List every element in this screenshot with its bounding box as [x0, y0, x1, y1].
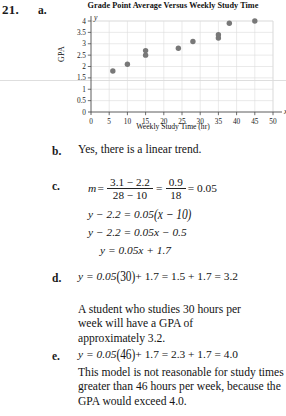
data-point — [216, 32, 221, 37]
axes — [88, 16, 282, 115]
data-point — [190, 39, 195, 44]
point-slope-lhs: y − 2.2 = 0.05 — [88, 208, 154, 220]
slope-frac2-denominator: 18 — [166, 189, 186, 202]
answer-e-text: This model is not reasonable for study t… — [78, 366, 284, 409]
part-label-a: a. — [38, 4, 47, 16]
point-slope-equation: y − 2.2 = 0.05(x − 10) — [88, 208, 191, 220]
chart-title: Grade Point Average Versus Weekly Study … — [60, 1, 286, 10]
answer-d-equation: y = 0.05(30)+ 1.7 = 1.5 + 1.7 = 3.2 — [78, 270, 238, 282]
problem-number: 21. — [2, 2, 19, 18]
slope-fraction-2: 0.918 — [166, 176, 186, 202]
tick-marks: 0510152025303540455000.511.522.533.54 — [77, 17, 277, 126]
grid-lines — [91, 21, 273, 112]
slope-frac2-numerator: 0.9 — [166, 176, 186, 190]
answer-b-text: Yes, there is a linear trend. — [78, 143, 278, 157]
y-tick-label: 3 — [82, 39, 86, 48]
data-points — [110, 18, 257, 73]
slope-result: = 0.05 — [188, 182, 217, 194]
y-tick-label: 1 — [82, 85, 86, 94]
y-tick-label: 0 — [82, 108, 86, 117]
slope-fraction-1: 3.1 − 2.228 − 10 — [107, 176, 153, 202]
data-point — [110, 68, 115, 73]
slope-frac1-denominator: 28 − 10 — [107, 189, 153, 202]
slope-frac1-numerator: 3.1 − 2.2 — [107, 176, 153, 190]
data-point — [252, 18, 257, 23]
data-point — [125, 62, 130, 67]
part-label-c: c. — [52, 180, 60, 192]
slope-equals-2: = — [155, 182, 164, 194]
answer-e-equation: y = 0.05(46)+ 1.7 = 2.3 + 1.7 = 4.0 — [78, 348, 238, 360]
data-point — [143, 48, 148, 53]
answer-d-paren: (30) — [116, 268, 135, 283]
x-axis-title: Weekly Study Time (hr) — [60, 122, 286, 131]
y-tick-label: 3.5 — [77, 28, 86, 37]
answer-e-paren: (46) — [116, 346, 135, 361]
x-axis-symbol: x — [283, 107, 286, 116]
answer-d-tail: + 1.7 = 1.5 + 1.7 = 3.2 — [135, 270, 238, 282]
answer-d-lead: y = 0.05 — [78, 270, 116, 282]
scatter-plot-figure: Grade Point Average Versus Weekly Study … — [60, 0, 286, 140]
distributed-equation: y − 2.2 = 0.05x − 0.5 — [88, 226, 187, 238]
part-label-e: e. — [52, 350, 60, 362]
y-tick-label: 4 — [82, 17, 86, 26]
y-tick-label: 2 — [82, 62, 86, 71]
slope-variable: m — [88, 182, 96, 194]
part-label-b: b. — [52, 145, 61, 157]
slope-equation: m=3.1 − 2.228 − 10=0.918= 0.05 — [88, 176, 217, 202]
point-slope-paren: (x − 10) — [154, 206, 191, 221]
y-axis-title: GPA — [57, 46, 66, 62]
part-label-d: d. — [52, 272, 61, 284]
answer-e-lead: y = 0.05 — [78, 348, 116, 360]
slope-equals: = — [96, 182, 105, 194]
data-point — [176, 46, 181, 51]
slope-intercept-equation: y = 0.05x + 1.7 — [100, 244, 171, 256]
y-axis-symbol: y — [93, 14, 98, 22]
data-point — [227, 21, 232, 26]
answer-d-text: A student who studies 30 hours per week … — [78, 303, 258, 346]
answer-e-tail: + 1.7 = 2.3 + 1.7 = 4.0 — [135, 348, 238, 360]
y-tick-label: 2.5 — [77, 51, 86, 60]
y-tick-label: 0.5 — [77, 96, 86, 105]
y-tick-label: 1.5 — [77, 73, 86, 82]
